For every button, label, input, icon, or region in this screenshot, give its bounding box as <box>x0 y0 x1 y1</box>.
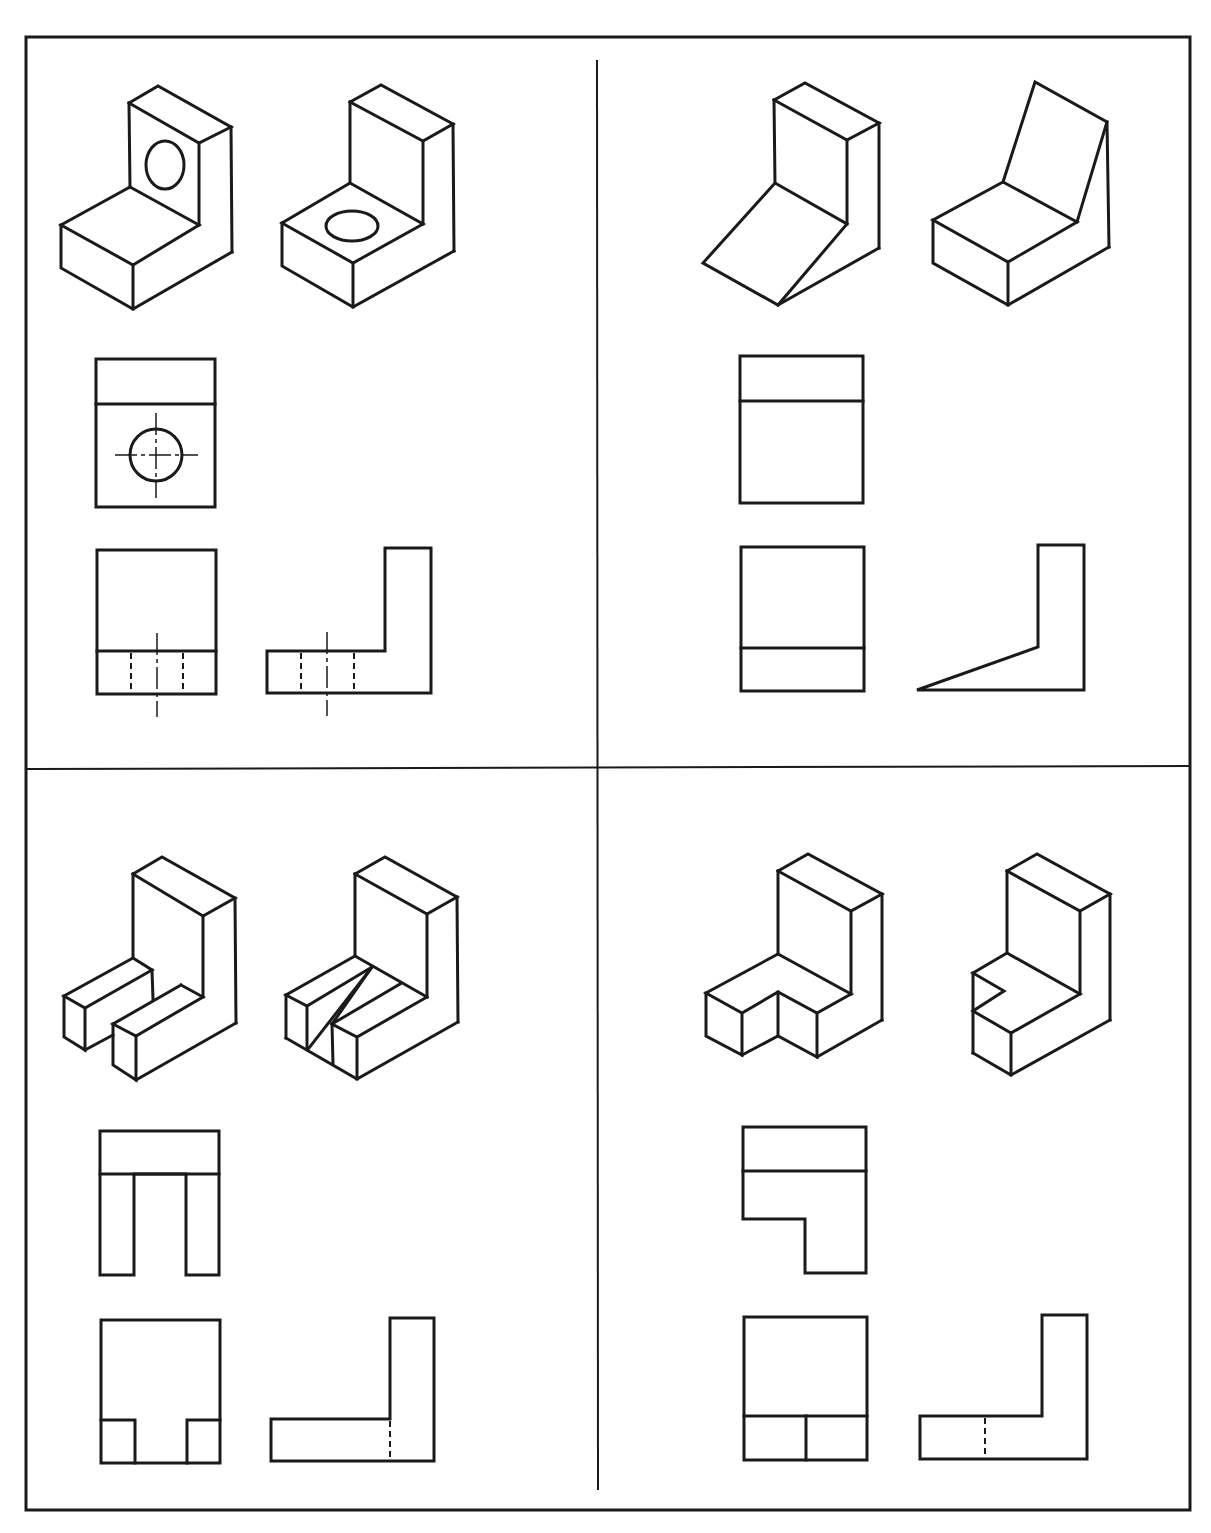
drawing-sheet <box>0 0 1211 1533</box>
top-view <box>740 356 863 503</box>
iso-bracket-side-notch <box>973 854 1110 1075</box>
panel-3 <box>64 857 458 1463</box>
top-view <box>743 1127 866 1273</box>
iso-bracket-vertical-hole <box>61 86 232 309</box>
iso-bracket-base-hole <box>282 85 454 307</box>
front-view <box>741 547 864 691</box>
front-view <box>101 1320 220 1463</box>
horizontal-divider <box>27 766 1189 769</box>
iso-bracket-sloped-base <box>703 83 879 305</box>
iso-bracket-angled-slot <box>286 857 458 1079</box>
iso-bracket-slotted-base <box>64 857 236 1080</box>
iso-bracket-front-notch <box>706 854 882 1057</box>
top-view <box>96 359 215 507</box>
iso-bracket-sloped-back <box>933 82 1109 305</box>
panel-4 <box>706 854 1110 1460</box>
panel-2 <box>703 82 1109 691</box>
top-view <box>100 1131 219 1275</box>
front-view <box>744 1317 867 1460</box>
side-view <box>917 545 1084 690</box>
front-view <box>97 550 216 717</box>
side-view <box>267 548 431 716</box>
side-view <box>271 1318 434 1461</box>
panel-1 <box>61 85 454 717</box>
vertical-divider <box>597 60 598 1490</box>
side-view <box>920 1315 1087 1459</box>
